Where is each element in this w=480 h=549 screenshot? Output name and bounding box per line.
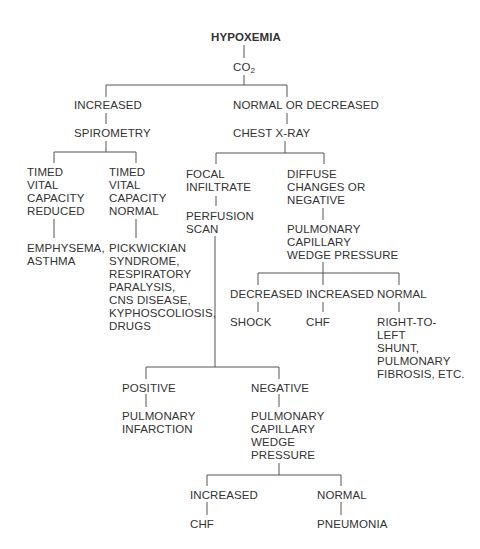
node-pickwickian: PICKWICKIANSYNDROME,RESPIRATORYPARALYSIS…	[109, 242, 216, 333]
node-pcwp1-decreased: DECREASED	[230, 288, 302, 301]
node-diffuse: DIFFUSECHANGES ORNEGATIVE	[287, 168, 365, 207]
node-tvc-reduced: TIMEDVITALCAPACITYREDUCED	[27, 166, 85, 218]
connector-lines	[0, 0, 480, 549]
node-pcwp2-increased: INCREASED	[190, 489, 258, 502]
node-increased: INCREASED	[74, 99, 142, 112]
node-co2: CO2	[233, 61, 255, 74]
node-pcwp-2: PULMONARYCAPILLARYWEDGEPRESSURE	[251, 410, 325, 462]
node-shunt: RIGHT-TO-LEFTSHUNT,PULMONARYFIBROSIS, ET…	[377, 316, 465, 381]
node-positive: POSITIVE	[122, 382, 176, 395]
node-pneumonia: PNEUMONIA	[317, 518, 388, 531]
node-pulmonary-infarction: PULMONARYINFARCTION	[122, 410, 196, 436]
node-chf-2: CHF	[190, 518, 214, 531]
node-hypoxemia: HYPOXEMIA	[211, 31, 281, 44]
node-pcwp1-increased: INCREASED	[306, 288, 374, 301]
node-emphysema: EMPHYSEMA,ASTHMA	[27, 242, 105, 268]
node-pcwp-1: PULMONARYCAPILLARYWEDGE PRESSURE	[287, 223, 398, 262]
node-focal-infiltrate: FOCALINFILTRATE	[186, 168, 251, 194]
node-tvc-normal: TIMEDVITALCAPACITYNORMAL	[109, 166, 166, 218]
node-perfusion-scan: PERFUSIONSCAN	[186, 210, 254, 236]
node-pcwp2-normal: NORMAL	[317, 489, 367, 502]
node-chf-1: CHF	[306, 316, 330, 329]
node-pcwp1-normal: NORMAL	[377, 288, 427, 301]
node-chest-xray: CHEST X-RAY	[233, 127, 310, 140]
node-normal-or-decreased: NORMAL OR DECREASED	[233, 99, 379, 112]
node-negative: NEGATIVE	[251, 382, 309, 395]
node-spirometry: SPIROMETRY	[74, 127, 151, 140]
node-shock: SHOCK	[230, 316, 271, 329]
